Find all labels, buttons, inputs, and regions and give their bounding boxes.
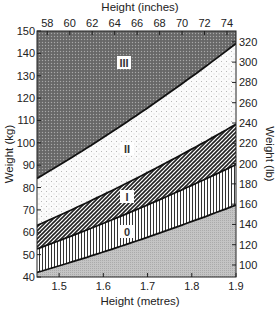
y-tick-label: 140 xyxy=(17,47,35,59)
x-top-tick-label: 66 xyxy=(131,17,143,29)
y-right-tick-label: 180 xyxy=(239,178,257,190)
grade-label-III: III xyxy=(119,57,128,69)
y-right-tick-label: 160 xyxy=(239,198,257,210)
x-top-tick-label: 74 xyxy=(221,17,233,29)
y-tick-label: 50 xyxy=(23,249,35,261)
top-axis-title: Height (inches) xyxy=(101,1,179,13)
x-top-tick-label: 68 xyxy=(153,17,165,29)
x-top-tick-label: 70 xyxy=(176,17,188,29)
x-top-tick-label: 72 xyxy=(198,17,210,29)
x-tick-label: 1.9 xyxy=(228,280,243,292)
y-right-tick-label: 260 xyxy=(239,97,257,109)
x-top-tick-label: 64 xyxy=(109,17,121,29)
y-tick-label: 80 xyxy=(23,182,35,194)
bottom-axis-title: Height (metres) xyxy=(100,295,179,307)
grade-label-0: 0 xyxy=(124,226,130,238)
y-right-tick-label: 100 xyxy=(239,259,257,271)
y-right-tick-label: 120 xyxy=(239,239,257,251)
y-right-tick-label: 300 xyxy=(239,56,257,68)
y-tick-label: 70 xyxy=(23,204,35,216)
y-tick-label: 60 xyxy=(23,226,35,238)
y-right-tick-label: 240 xyxy=(239,117,257,129)
y-right-tick-label: 200 xyxy=(239,158,257,170)
y-tick-label: 110 xyxy=(17,114,35,126)
y-right-tick-label: 320 xyxy=(239,36,257,48)
y-right-tick-label: 140 xyxy=(239,218,257,230)
x-tick-label: 1.6 xyxy=(96,280,111,292)
right-axis-title: Weight (lb) xyxy=(264,126,276,182)
y-tick-label: 120 xyxy=(17,92,35,104)
y-tick-label: 150 xyxy=(17,25,35,37)
x-top-tick-label: 58 xyxy=(41,17,53,29)
x-tick-label: 1.5 xyxy=(51,280,66,292)
x-top-tick-label: 62 xyxy=(86,17,98,29)
obesity-grade-chart: 1.51.61.71.81.95860626466687072744050607… xyxy=(0,0,276,313)
y-tick-label: 100 xyxy=(17,137,35,149)
y-tick-label: 130 xyxy=(17,70,35,82)
y-right-tick-label: 220 xyxy=(239,137,257,149)
grade-label-II: II xyxy=(124,143,130,155)
x-tick-label: 1.7 xyxy=(140,280,155,292)
y-tick-label: 90 xyxy=(23,159,35,171)
x-tick-label: 1.8 xyxy=(184,280,199,292)
x-top-tick-label: 60 xyxy=(64,17,76,29)
left-axis-title: Weight (kg) xyxy=(3,125,15,184)
y-tick-label: 40 xyxy=(23,271,35,283)
plot-area xyxy=(37,26,236,282)
grade-label-I: I xyxy=(125,191,128,203)
y-right-tick-label: 280 xyxy=(239,76,257,88)
